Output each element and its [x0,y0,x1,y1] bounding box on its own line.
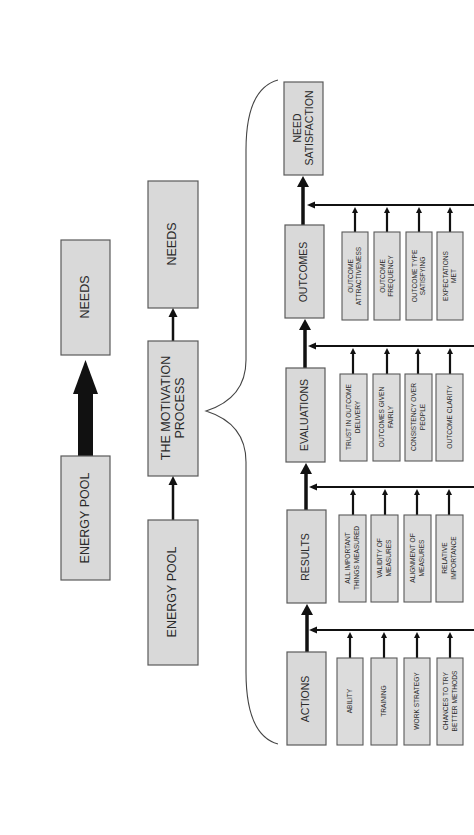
factor-label: OUTCOMES GIVEN [378,387,385,448]
arrow-up-icon [301,604,313,652]
arrow-left-icon [307,202,315,209]
arrow-left-icon [308,343,316,350]
factor-label: THINGS MEASURED [353,526,360,590]
factor-label: CHANCES TO TRY [442,672,449,730]
factor-label: TRUST IN OUTCOME [345,383,352,449]
process-model: NEEDS THE MOTIVATION PROCESS ENERGY POOL [148,181,198,665]
factor-label: ALIGNMENT OF [409,533,416,582]
motivation-process-label-line1: THE MOTIVATION [159,356,173,460]
factor-label: PEOPLE [419,403,426,430]
factor-label: FAIRLY [387,405,394,428]
factor-label: MEASURES [418,539,425,577]
factor-label: ATTRACTIVENESS [355,246,362,305]
arrow-up-icon [297,176,309,225]
factor-label: EXPECTATIONS [442,250,449,301]
factor-label: MEASURES [385,539,392,577]
factor-label: CONSISTENCY OVER [410,383,417,451]
simple-needs-label: NEEDS [78,275,92,318]
factor-label: BETTER METHODS [451,670,458,731]
arrow-up-icon [169,476,178,520]
factor-label: RELATIVE [441,542,448,574]
factor-label: SATISFYING [419,257,426,296]
outcomes-factors: OUTCOME ATTRACTIVENESS OUTCOME FREQUENCY… [307,202,474,321]
factor-label: WORK STRATEGY [413,672,420,730]
factor-label: ALL IMPORTANT [344,532,351,584]
arrow-left-icon [309,627,317,634]
expanded-process: NEED SATISFACTION OUTCOMES EVALUATIONS R… [284,82,326,745]
outcomes-label: OUTCOMES [297,242,309,303]
factor-label: OUTCOME CLARITY [446,385,453,449]
process-energy-pool-label: ENERGY POOL [165,547,179,638]
factor-label: ABILITY [346,688,353,713]
factor-label: OUTCOME [347,259,354,293]
factor-label: OUTCOME [379,259,386,293]
simple-model: NEEDS ENERGY POOL [61,240,110,580]
factor-label: TRAINING [380,685,387,717]
factor-label: MET [450,269,457,283]
factor-label: DELIVERY [354,400,361,433]
need-satisfaction-label-line2: SATISFACTION [303,90,315,165]
thick-arrow-icon [73,360,98,456]
process-needs-label: NEEDS [165,222,179,265]
factor-label: IMPORTANCE [450,536,457,580]
simple-energy-pool-label: ENERGY POOL [78,473,92,564]
curly-brace [206,80,278,744]
results-factors: ALL IMPORTANT THINGS MEASURED VALIDITY O… [309,484,474,603]
evaluations-factors: TRUST IN OUTCOME DELIVERY OUTCOMES GIVEN… [308,343,474,462]
actions-label: ACTIONS [299,676,311,723]
factor-label: VALIDITY OF [376,538,383,578]
arrow-left-icon [309,484,317,491]
results-label: RESULTS [299,533,311,581]
arrow-up-icon [299,319,311,368]
arrow-up-icon [169,308,178,341]
factor-label: OUTCOME TYPE [411,249,418,302]
motivation-process-label-line2: PROCESS [173,377,187,438]
need-satisfaction-label-line1: NEED [291,113,303,143]
evaluations-label: EVALUATIONS [298,379,310,451]
motivation-process-diagram: NEEDS ENERGY POOL NEEDS THE MOTIVATION P… [0,0,474,835]
actions-factors: ABILITY TRAINING WORK STRATEGY CHANCES T… [309,627,474,746]
factor-label: FREQUENCY [387,255,395,297]
